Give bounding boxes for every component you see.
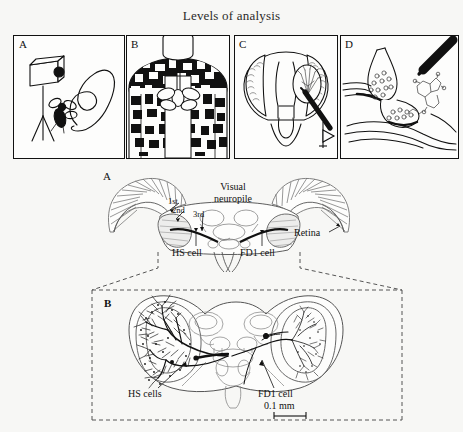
label-visual-neuropile-line1: Visual [203,182,263,193]
panel-c-recording: C [234,35,338,159]
label-fd1-cell-a: FD1 cell [240,248,275,259]
label-layer-3rd: 3rd [193,210,204,219]
label-scale-bar: 0.1 mm [264,401,295,412]
label-fd1-cell-b: FD1 cell [258,389,293,400]
panel-b-drawing [127,36,229,158]
panel-d-synapse: D [340,35,459,159]
lower-panel-a-letter: A [103,171,111,183]
scale-bar-mark [274,412,306,419]
lower-panel-b-letter: B [104,298,111,310]
panel-c-letter: C [239,39,246,50]
panel-c-drawing [235,36,337,158]
panel-b-letter: B [131,39,138,50]
panel-b-flight-arena: B [126,35,230,159]
panel-a-letter: A [19,39,27,50]
label-visual-neuropile-line2: neuropile [198,194,268,205]
figure-root: Levels of analysis [0,0,463,432]
label-retina: Retina [294,228,320,239]
label-hs-cell-a: HS cell [172,248,202,259]
panel-a-drawing [14,36,124,158]
panel-d-drawing [341,36,458,158]
lower-panel-b-brain [129,295,343,419]
panel-d-letter: D [345,39,353,50]
label-hs-cells-b: HS cells [128,389,162,400]
figure-title: Levels of analysis [0,8,463,24]
label-layer-2nd: 2nd [172,206,185,215]
panel-a-behaviour: A [13,35,125,159]
